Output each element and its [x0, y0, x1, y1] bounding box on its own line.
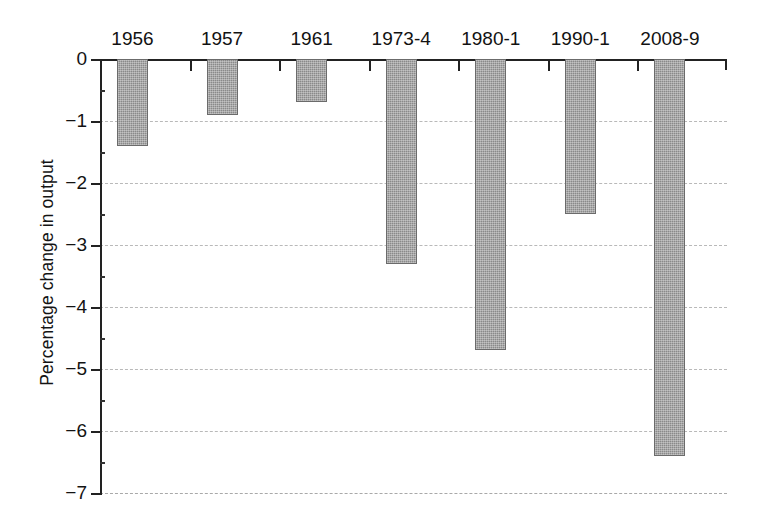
x-axis-tick-label: 1990-1	[551, 28, 610, 50]
x-axis-right-cap	[725, 59, 727, 70]
bar	[207, 59, 238, 115]
plot-area: 0−1−2−3−4−5−6−7 1956195719611973-41980-1…	[100, 59, 727, 493]
y-axis-tick	[91, 369, 102, 371]
y-axis-minor-tick	[100, 400, 105, 402]
y-axis-tick-label: −6	[65, 420, 87, 442]
bar	[654, 59, 685, 456]
bar	[386, 59, 417, 264]
y-axis-tick	[91, 245, 102, 247]
y-axis-tick-label: −1	[65, 110, 87, 132]
y-axis-tick	[91, 121, 102, 123]
y-axis-tick-label: −7	[65, 482, 87, 504]
gridline	[100, 431, 727, 432]
y-axis-title: Percentage change in output	[37, 63, 58, 483]
y-axis-tick-label: −4	[65, 296, 87, 318]
y-axis-tick	[91, 431, 102, 433]
y-axis-minor-tick	[100, 152, 105, 154]
y-axis-tick-label: 0	[76, 48, 87, 70]
x-axis-tick	[637, 59, 639, 71]
y-axis-tick-label: −2	[65, 172, 87, 194]
gridline	[100, 369, 727, 370]
x-axis-tick	[190, 59, 192, 71]
y-axis-minor-tick	[100, 338, 105, 340]
gridline	[100, 307, 727, 308]
y-axis-minor-tick	[100, 90, 105, 92]
y-axis-tick	[91, 307, 102, 309]
bar	[296, 59, 327, 102]
x-axis-tick	[369, 59, 371, 71]
x-axis-tick-label: 1973-4	[372, 28, 431, 50]
x-axis-tick	[548, 59, 550, 71]
x-axis-tick-label: 2008-9	[640, 28, 699, 50]
bar	[117, 59, 148, 146]
y-axis-tick-label: −3	[65, 234, 87, 256]
y-axis-minor-tick	[100, 214, 105, 216]
x-axis-tick-label: 1961	[291, 28, 333, 50]
bar	[565, 59, 596, 214]
y-axis-minor-tick	[100, 462, 105, 464]
y-axis-tick	[91, 493, 102, 495]
gridline	[100, 493, 727, 494]
y-axis-tick	[91, 183, 102, 185]
x-axis-tick	[458, 59, 460, 71]
y-axis-tick	[91, 59, 102, 61]
y-axis-minor-tick	[100, 276, 105, 278]
bar	[475, 59, 506, 350]
x-axis-tick-label: 1956	[111, 28, 153, 50]
bar-chart: Percentage change in output 0−1−2−3−4−5−…	[0, 0, 760, 527]
x-axis-tick	[279, 59, 281, 71]
x-axis-tick-label: 1957	[201, 28, 243, 50]
y-axis-tick-label: −5	[65, 358, 87, 380]
x-axis-tick-label: 1980-1	[461, 28, 520, 50]
